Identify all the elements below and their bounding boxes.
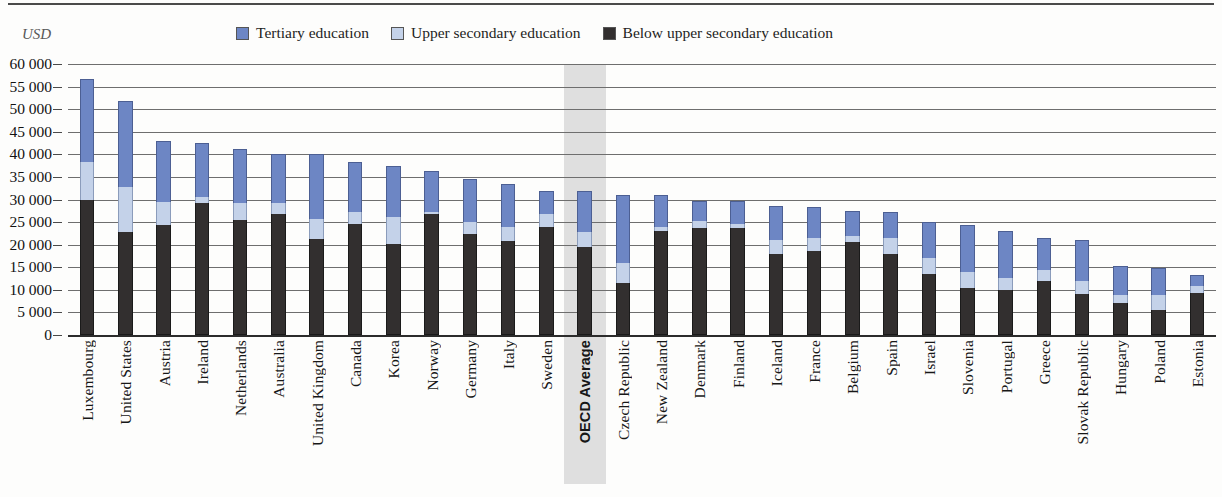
x-tick-label-luxembourg: Luxembourg: [79, 340, 97, 421]
bar-united-states[interactable]: [118, 101, 133, 335]
bar-luxembourg[interactable]: [80, 79, 95, 335]
bar-new-zealand[interactable]: [654, 195, 669, 335]
x-tick-label-canada: Canada: [347, 340, 365, 387]
legend-item-below_upper_secondary[interactable]: Below upper secondary education: [603, 24, 833, 42]
bar-segment-tertiary: [1075, 240, 1090, 281]
y-tick-label: 55 000: [9, 78, 52, 96]
legend-item-upper_secondary[interactable]: Upper secondary education: [391, 24, 581, 42]
bar-segment-tertiary: [960, 225, 975, 272]
bar-segment-below: [730, 228, 745, 335]
x-tick-label-france: France: [806, 340, 824, 383]
bar-ireland[interactable]: [195, 143, 210, 335]
bar-segment-tertiary: [654, 195, 669, 227]
y-axis-unit-label: USD: [22, 26, 51, 43]
x-tick-label-new-zealand: New Zealand: [653, 340, 671, 424]
x-tick-label-korea: Korea: [385, 340, 403, 378]
bar-canada[interactable]: [348, 162, 363, 335]
y-tick-mark: [53, 267, 62, 268]
bar-segment-upper: [922, 258, 937, 274]
bar-hungary[interactable]: [1113, 266, 1128, 335]
bar-iceland[interactable]: [769, 206, 784, 335]
bar-estonia[interactable]: [1190, 275, 1205, 335]
bar-segment-below: [845, 242, 860, 335]
bar-france[interactable]: [807, 207, 822, 335]
x-tick-label-italy: Italy: [500, 340, 518, 369]
bar-germany[interactable]: [463, 179, 478, 335]
y-tick-label: 0: [44, 326, 52, 344]
bar-segment-upper: [271, 203, 286, 214]
x-tick-label-slovak-republic: Slovak Republic: [1074, 340, 1092, 444]
bar-segment-tertiary: [424, 171, 439, 212]
x-tick-label-norway: Norway: [424, 340, 442, 391]
bar-segment-upper: [539, 214, 554, 226]
bar-segment-below: [195, 203, 210, 335]
x-tick-label-slovenia: Slovenia: [959, 340, 977, 395]
bar-segment-below: [998, 290, 1013, 335]
header-divider: [8, 3, 1214, 5]
bar-segment-below: [769, 254, 784, 335]
y-tick-mark: [53, 154, 62, 155]
bar-segment-upper: [233, 203, 248, 220]
bar-segment-upper: [80, 162, 95, 200]
bar-italy[interactable]: [501, 184, 516, 335]
bar-slovak-republic[interactable]: [1075, 240, 1090, 335]
y-tick-label: 10 000: [9, 281, 52, 299]
y-tick-label: 15 000: [9, 258, 52, 276]
bar-korea[interactable]: [386, 166, 401, 335]
bar-segment-tertiary: [577, 191, 592, 232]
bar-segment-tertiary: [922, 222, 937, 258]
square-swatch-icon: [236, 27, 249, 40]
chart-page: USD Tertiary educationUpper secondary ed…: [0, 0, 1222, 497]
bar-oecd-average[interactable]: [577, 191, 592, 335]
bar-segment-upper: [501, 227, 516, 241]
bar-segment-upper: [309, 219, 324, 239]
y-tick-mark: [53, 335, 62, 336]
x-tick-label-oecd-average: OECD Average: [577, 340, 593, 443]
bar-israel[interactable]: [922, 222, 937, 335]
bar-segment-upper: [1113, 295, 1128, 304]
bar-segment-tertiary: [271, 154, 286, 203]
bar-segment-below: [1190, 293, 1205, 335]
bar-segment-upper: [1075, 281, 1090, 295]
x-tick-label-greece: Greece: [1036, 340, 1054, 384]
bar-czech-republic[interactable]: [616, 195, 631, 335]
bar-segment-tertiary: [118, 101, 133, 187]
bar-spain[interactable]: [883, 212, 898, 335]
bar-finland[interactable]: [730, 201, 745, 335]
y-tick-mark: [53, 87, 62, 88]
bar-belgium[interactable]: [845, 211, 860, 335]
bar-sweden[interactable]: [539, 191, 554, 335]
x-tick-label-israel: Israel: [921, 340, 939, 375]
bar-segment-below: [922, 274, 937, 335]
bar-segment-tertiary: [1190, 275, 1205, 286]
x-tick-label-australia: Australia: [270, 340, 288, 398]
bar-segment-tertiary: [348, 162, 363, 213]
bar-austria[interactable]: [156, 141, 171, 335]
bar-united-kingdom[interactable]: [309, 154, 324, 335]
x-tick-label-austria: Austria: [156, 340, 174, 386]
x-tick-label-denmark: Denmark: [691, 340, 709, 398]
bar-segment-below: [386, 244, 401, 335]
x-tick-label-united-kingdom: United Kingdom: [309, 340, 327, 446]
bar-poland[interactable]: [1151, 268, 1166, 335]
x-tick-label-hungary: Hungary: [1112, 340, 1130, 395]
bar-greece[interactable]: [1037, 238, 1052, 335]
x-tick-label-united-states: United States: [117, 340, 135, 424]
bar-segment-tertiary: [883, 212, 898, 238]
bar-segment-below: [309, 239, 324, 335]
bar-segment-upper: [692, 221, 707, 228]
bar-slovenia[interactable]: [960, 225, 975, 335]
y-tick-mark: [53, 245, 62, 246]
bar-segment-below: [1151, 310, 1166, 335]
bar-norway[interactable]: [424, 171, 439, 335]
bar-netherlands[interactable]: [233, 149, 248, 335]
square-swatch-icon: [603, 27, 616, 40]
bar-portugal[interactable]: [998, 231, 1013, 335]
bar-denmark[interactable]: [692, 201, 707, 335]
bar-australia[interactable]: [271, 154, 286, 335]
bar-segment-tertiary: [998, 231, 1013, 278]
gridline-0: [68, 335, 1216, 337]
bar-segment-below: [463, 234, 478, 335]
legend-item-tertiary[interactable]: Tertiary education: [236, 24, 369, 42]
bar-segment-below: [156, 225, 171, 335]
